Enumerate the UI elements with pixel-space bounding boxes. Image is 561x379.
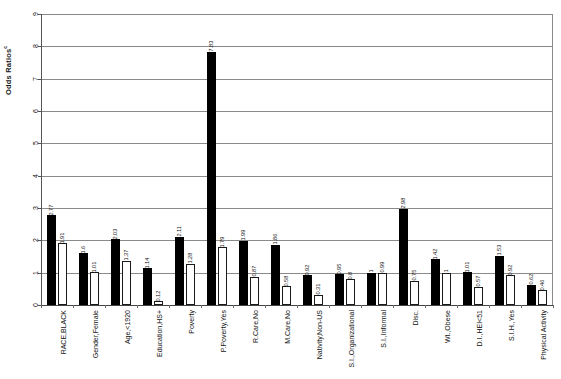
bar-open: 0.99: [378, 273, 388, 305]
x-axis-label: S.I.,Informal: [380, 310, 387, 348]
bar-solid: 1.99: [239, 241, 249, 305]
x-tick-mark: [553, 305, 554, 308]
bar-value-label: 1.37: [124, 250, 130, 261]
bar-group: 10.99: [367, 14, 388, 305]
x-tick-mark: [297, 305, 298, 308]
bar-value-label: 1.79: [220, 236, 226, 247]
bar-open: 0.46: [538, 290, 548, 305]
bar-solid: 2.03: [111, 239, 121, 305]
bar-open: 1.28: [186, 264, 196, 305]
bar-solid: 2.11: [175, 237, 185, 305]
x-axis-label: Wt.,Obese: [444, 310, 451, 343]
x-axis-label: Physical Activity: [540, 310, 547, 360]
bar-value-label: 1.01: [92, 261, 98, 272]
bar-value-label: 2.03: [113, 228, 119, 239]
x-axis-label: R.Care,No: [252, 310, 259, 343]
bar-value-label: 0.75: [412, 270, 418, 281]
bar-value-label: 1: [369, 270, 375, 273]
x-axis-label: Education,HS+: [156, 310, 163, 357]
x-axis-label: S.I.H.,Yes: [508, 310, 515, 341]
x-tick-mark: [489, 305, 490, 308]
x-tick-mark: [457, 305, 458, 308]
y-tick-label-2: 2: [33, 238, 40, 242]
y-tick-label-7: 7: [33, 77, 40, 81]
bar-solid: 1: [367, 273, 377, 305]
bar-value-label: 0.92: [305, 264, 311, 275]
bar-group: 1.140.12: [143, 14, 164, 305]
bar-value-label: 7.83: [209, 41, 215, 52]
bar-solid: 2.98: [399, 209, 409, 305]
bar-value-label: 0.87: [252, 266, 258, 277]
bar-value-label: 0.62: [529, 274, 535, 285]
x-axis-label: Nativity,Non-US: [316, 310, 323, 359]
bar-open: 1.79: [218, 247, 228, 305]
bar-group: 2.771.91: [47, 14, 68, 305]
bar-solid: 2.77: [47, 215, 57, 305]
y-tick-label-8: 8: [33, 44, 40, 48]
x-axis-label: RACE,BLACK: [60, 310, 67, 354]
x-tick-mark: [105, 305, 106, 308]
x-axis-label: M.Care,No: [284, 310, 291, 344]
bar-open: 1: [442, 273, 452, 305]
bar-group: 0.920.31: [303, 14, 324, 305]
bars-layer: 2.771.911.61.012.031.371.140.122.111.287…: [41, 14, 553, 305]
bar-open: 0.58: [282, 286, 292, 305]
bar-value-label: 1.99: [241, 230, 247, 241]
bar-group: 2.031.37: [111, 14, 132, 305]
bar-group: 1.61.01: [79, 14, 100, 305]
bar-group: 1.530.92: [495, 14, 516, 305]
bar-group: 2.980.75: [399, 14, 420, 305]
bar-value-label: 1.86: [273, 234, 279, 245]
y-tick-label-5: 5: [33, 141, 40, 145]
x-axis-labels: RACE,BLACKGender,FemaleAge,<1920Educatio…: [41, 305, 553, 379]
x-axis-label: Disc.: [412, 310, 419, 326]
bar-value-label: 0.31: [316, 284, 322, 295]
bar-open: 1.01: [90, 272, 100, 305]
bar-open: 0.75: [410, 281, 420, 305]
bar-group: 2.111.28: [175, 14, 196, 305]
x-tick-mark: [329, 305, 330, 308]
bar-open: 0.57: [474, 287, 484, 305]
bar-solid: 1.86: [271, 245, 281, 305]
bar-open: 1.37: [122, 261, 132, 305]
x-tick-mark: [73, 305, 74, 308]
bar-solid: 0.62: [527, 285, 537, 305]
bar-value-label: 1.42: [433, 248, 439, 259]
bar-value-label: 1.14: [145, 257, 151, 268]
bar-value-label: 1.28: [188, 253, 194, 264]
bar-group: 1.860.58: [271, 14, 292, 305]
y-axis-title-text: Odds Ratios: [4, 49, 13, 95]
odds-ratio-bar-chart: Odds Ratiosc 0123456789 2.771.911.61.012…: [0, 0, 561, 379]
x-axis-label: Poverty: [188, 310, 195, 334]
bar-open: 1.91: [58, 243, 68, 305]
bar-solid: 1.42: [431, 259, 441, 305]
bar-value-label: 2.11: [177, 226, 183, 236]
bar-group: 0.950.8: [335, 14, 356, 305]
x-axis-label: S.I.,Organizational: [348, 310, 355, 368]
bar-open: 0.87: [250, 277, 260, 305]
bar-value-label: 1.01: [465, 261, 471, 272]
bar-solid: 1.6: [79, 253, 89, 305]
bar-value-label: 1.91: [60, 232, 66, 243]
bar-open: 0.31: [314, 295, 324, 305]
x-tick-mark: [137, 305, 138, 308]
bar-solid: 1.14: [143, 268, 153, 305]
y-tick-label-9: 9: [33, 12, 40, 16]
y-axis-title-superscript: c: [2, 46, 8, 49]
x-tick-mark: [41, 305, 42, 308]
bar-value-label: 0.99: [380, 262, 386, 273]
bar-solid: 0.92: [303, 275, 313, 305]
bar-value-label: 2.98: [401, 198, 407, 209]
bar-value-label: 0.58: [284, 275, 290, 286]
x-tick-mark: [265, 305, 266, 308]
x-axis-label: P.Poverty,Yes: [220, 310, 227, 352]
bar-value-label: 0.95: [337, 263, 343, 274]
y-tick-label-1: 1: [33, 271, 40, 275]
bar-value-label: 0.57: [476, 276, 482, 287]
bar-group: 0.620.46: [527, 14, 548, 305]
x-tick-mark: [361, 305, 362, 308]
y-tick-label-3: 3: [33, 206, 40, 210]
bar-value-label: 1: [444, 270, 450, 273]
x-tick-mark: [201, 305, 202, 308]
bar-group: 7.831.79: [207, 14, 228, 305]
